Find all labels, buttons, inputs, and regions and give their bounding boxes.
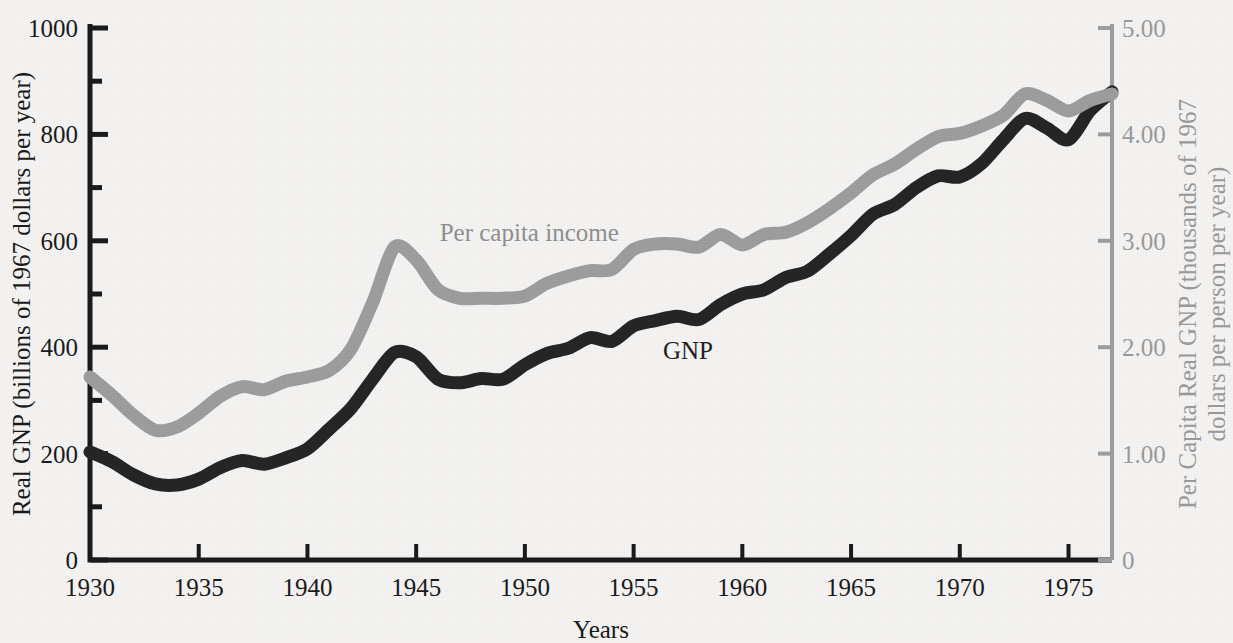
right-axis-tick-label: 1.00 xyxy=(1122,441,1166,468)
left-axis-tick-label: 1000 xyxy=(28,15,78,42)
right-axis-title-line: Per Capita Real GNP (thousands of 1967 xyxy=(1174,99,1202,509)
series-annotation-per-capita-income: Per capita income xyxy=(440,219,619,246)
left-and-bottom-axis-line xyxy=(90,24,1112,560)
x-axis-tick-label: 1965 xyxy=(826,574,876,601)
x-axis-tick-label: 1950 xyxy=(500,574,550,601)
series-line-per-capita-income xyxy=(90,94,1112,431)
right-axis-tick-label: 2.00 xyxy=(1122,334,1166,361)
chart-figure: 0200400600800100001.002.003.004.005.0019… xyxy=(0,0,1233,643)
x-axis-title: Years xyxy=(573,616,629,643)
right-axis-tick-label: 3.00 xyxy=(1122,228,1166,255)
series-line-gnp xyxy=(90,92,1112,485)
left-axis-tick-label: 800 xyxy=(41,121,79,148)
x-axis-tick-label: 1940 xyxy=(282,574,332,601)
left-axis-title: Real GNP (billions of 1967 dollars per y… xyxy=(8,72,36,516)
x-axis-tick-label: 1930 xyxy=(65,574,115,601)
x-axis-tick-label: 1945 xyxy=(391,574,441,601)
x-axis-tick-label: 1960 xyxy=(717,574,767,601)
chart-canvas: 0200400600800100001.002.003.004.005.0019… xyxy=(0,0,1233,643)
right-axis-tick-label: 5.00 xyxy=(1122,15,1166,42)
left-axis-tick-label: 0 xyxy=(66,547,79,574)
x-axis-tick-label: 1955 xyxy=(609,574,659,601)
series-annotation-gnp: GNP xyxy=(663,337,713,364)
x-axis-tick-label: 1970 xyxy=(935,574,985,601)
right-axis-tick-label: 4.00 xyxy=(1122,121,1166,148)
left-axis-tick-label: 200 xyxy=(41,441,79,468)
right-axis-tick-label: 0 xyxy=(1122,547,1135,574)
x-axis-tick-label: 1975 xyxy=(1044,574,1094,601)
left-axis-tick-label: 400 xyxy=(41,334,79,361)
left-axis-tick-label: 600 xyxy=(41,228,79,255)
x-axis-tick-label: 1935 xyxy=(174,574,224,601)
right-axis-title-line: dollars per person per year) xyxy=(1203,167,1231,442)
